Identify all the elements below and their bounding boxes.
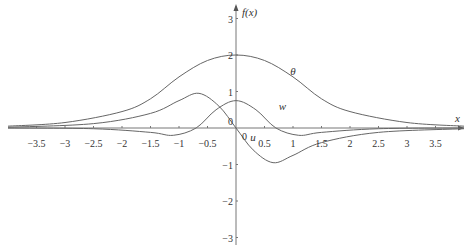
curve-label: w	[279, 100, 287, 112]
origin-label: 0	[242, 131, 247, 142]
y-tick-label: 2	[228, 50, 233, 61]
x-tick-label: 1.5	[315, 138, 328, 149]
x-tick-label: −1.5	[141, 138, 159, 149]
x-tick-label: 1	[291, 138, 296, 149]
y-axis-arrow-icon	[234, 4, 239, 11]
x-tick-label: 3	[405, 138, 410, 149]
curve-label: u	[250, 131, 256, 143]
y-tick-label: 1	[228, 87, 233, 98]
x-tick-label: −2.5	[84, 138, 102, 149]
x-tick-label: −1	[174, 138, 185, 149]
y-tick-label: 3	[228, 14, 233, 25]
chart: −3.5−3−2.5−2−1.5−1−0.50.511.522.533.5321…	[0, 0, 470, 251]
curve-label: θ	[290, 65, 296, 77]
x-axis-label: x	[454, 112, 460, 124]
x-tick-label: −3.5	[27, 138, 45, 149]
x-tick-label: −2	[117, 138, 128, 149]
y-tick-label: −3	[222, 233, 233, 244]
labels: −3.5−3−2.5−2−1.5−1−0.50.511.522.533.5321…	[27, 6, 460, 244]
x-tick-label: 2.5	[372, 138, 385, 149]
x-tick-label: 0.5	[258, 138, 271, 149]
y-axis-label: f(x)	[242, 6, 258, 19]
y-tick-label: −1	[222, 160, 233, 171]
x-tick-label: −3	[60, 138, 71, 149]
x-tick-label: −0.5	[198, 138, 216, 149]
x-tick-label: 3.5	[429, 138, 442, 149]
x-tick-label: 2	[348, 138, 353, 149]
origin-label: 0	[228, 116, 233, 127]
y-tick-label: −2	[222, 196, 233, 207]
